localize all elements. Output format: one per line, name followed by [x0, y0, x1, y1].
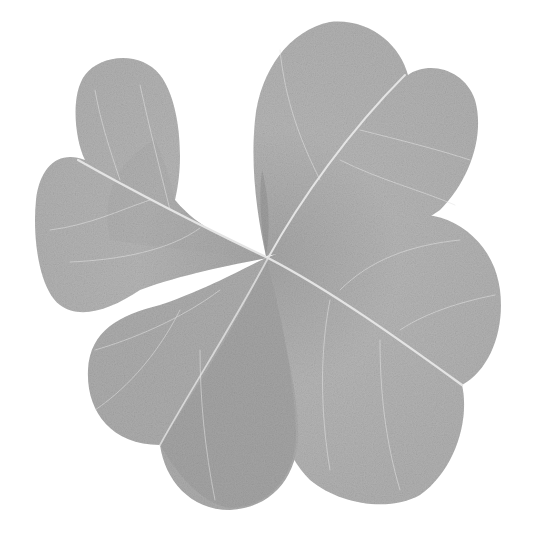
clover-illustration [0, 0, 539, 537]
four-leaf-clover-photo: Grayscale photograph of a four-leaf clov… [0, 0, 539, 537]
